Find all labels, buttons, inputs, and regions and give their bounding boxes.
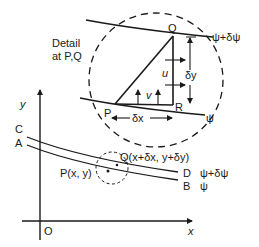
delta-y-label: δy: [185, 69, 197, 81]
detail-dashed-circle: [89, 13, 223, 147]
detail-view: Detail at P,Q Q P R u v δy δx ψ+δψ ψ: [52, 13, 240, 147]
detail-r-label: R: [175, 101, 183, 113]
streamline-diagram: Detail at P,Q Q P R u v δy δx ψ+δψ ψ y x…: [0, 0, 259, 247]
detail-label-1: Detail: [52, 37, 80, 49]
detail-p-label: P: [104, 107, 111, 119]
origin-label: O: [44, 225, 53, 237]
a-label: A: [15, 137, 23, 149]
pr-segment: [115, 104, 173, 105]
c-label: C: [15, 123, 23, 135]
y-axis-label: y: [19, 98, 27, 110]
point-p-dot: [107, 170, 110, 173]
main-plot: y x O C A D B ψ+δψ ψ Q(x+δx, y+δy) P(x, …: [15, 90, 228, 240]
d-label: D: [183, 167, 191, 179]
detail-upper-streamline: [86, 20, 213, 37]
point-p-label: P(x, y): [60, 167, 92, 179]
detail-upper-psi-label: ψ+δψ: [212, 31, 240, 43]
u-label: u: [162, 67, 168, 79]
detail-q-label: Q: [168, 22, 177, 34]
v-label: v: [146, 89, 153, 101]
point-q-label: Q(x+δx, y+δy): [120, 151, 189, 163]
delta-x-label: δx: [132, 112, 144, 124]
detail-lower-psi-label: ψ: [206, 112, 214, 124]
d-psi-label: ψ+δψ: [200, 167, 228, 179]
b-label: B: [183, 180, 190, 192]
x-axis-label: x: [187, 225, 194, 237]
point-q-dot: [116, 164, 119, 167]
b-psi-label: ψ: [200, 180, 208, 192]
detail-label-2: at P,Q: [52, 50, 82, 62]
